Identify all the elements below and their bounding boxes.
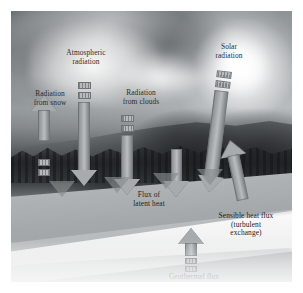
surface-ghost-arrow-3 — [153, 173, 179, 189]
segment-block-solar-1 — [216, 70, 232, 79]
segment-block-snow-1 — [38, 159, 50, 166]
surface-ghost-arrow-1 — [49, 181, 75, 197]
energy-balance-figure: Radiation from snow Atmospheric radiatio… — [0, 0, 303, 293]
segment-block-solar-2 — [215, 80, 231, 89]
arrow-shaft — [227, 154, 248, 201]
label-radiation-from-snow: Radiation from snow — [13, 90, 87, 107]
photo-frame: Radiation from snow Atmospheric radiatio… — [11, 11, 292, 282]
arrow-shaft — [78, 102, 90, 172]
label-radiation-from-clouds: Radiation from clouds — [103, 89, 179, 106]
label-flux-of-latent-heat: Flux of latent heat — [115, 191, 183, 208]
surface-ghost-arrow-4 — [197, 169, 223, 185]
label-atmospheric-radiation: Atmospheric radiation — [50, 49, 122, 66]
arrow-shaft — [38, 110, 50, 141]
segment-block-atmos-1 — [78, 82, 91, 89]
label-sensible-heat-flux: Sensible heat flux (turbulent exchange) — [200, 212, 292, 238]
bottom-fade — [11, 240, 292, 282]
segment-block-clouds-2 — [121, 125, 134, 132]
segment-block-clouds-1 — [121, 115, 134, 122]
arrow-atmospheric-radiation — [71, 102, 97, 188]
segment-block-snow-2 — [38, 169, 50, 176]
arrow-shaft — [121, 135, 133, 181]
label-solar-radiation: Solar radiation — [194, 43, 264, 60]
